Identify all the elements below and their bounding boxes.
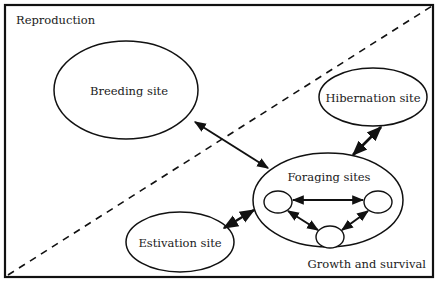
foraging-sites-label: Foraging sites [288, 170, 371, 184]
estivation-site-label: Estivation site [138, 236, 221, 250]
foraging-subsite-right [364, 191, 392, 213]
region-label-reproduction: Reproduction [16, 13, 96, 27]
foraging-subsite-left [264, 191, 292, 213]
breeding-site-label: Breeding site [90, 84, 168, 98]
habitat-diagram: Reproduction Growth and survival Breedin… [0, 0, 438, 285]
node-estivation-site: Estivation site [126, 212, 234, 272]
node-breeding-site: Breeding site [54, 41, 198, 139]
foraging-subsite-bottom [316, 226, 344, 248]
node-hibernation-site: Hibernation site [319, 68, 427, 126]
hibernation-site-label: Hibernation site [326, 91, 421, 105]
region-label-growth-survival: Growth and survival [308, 257, 427, 271]
